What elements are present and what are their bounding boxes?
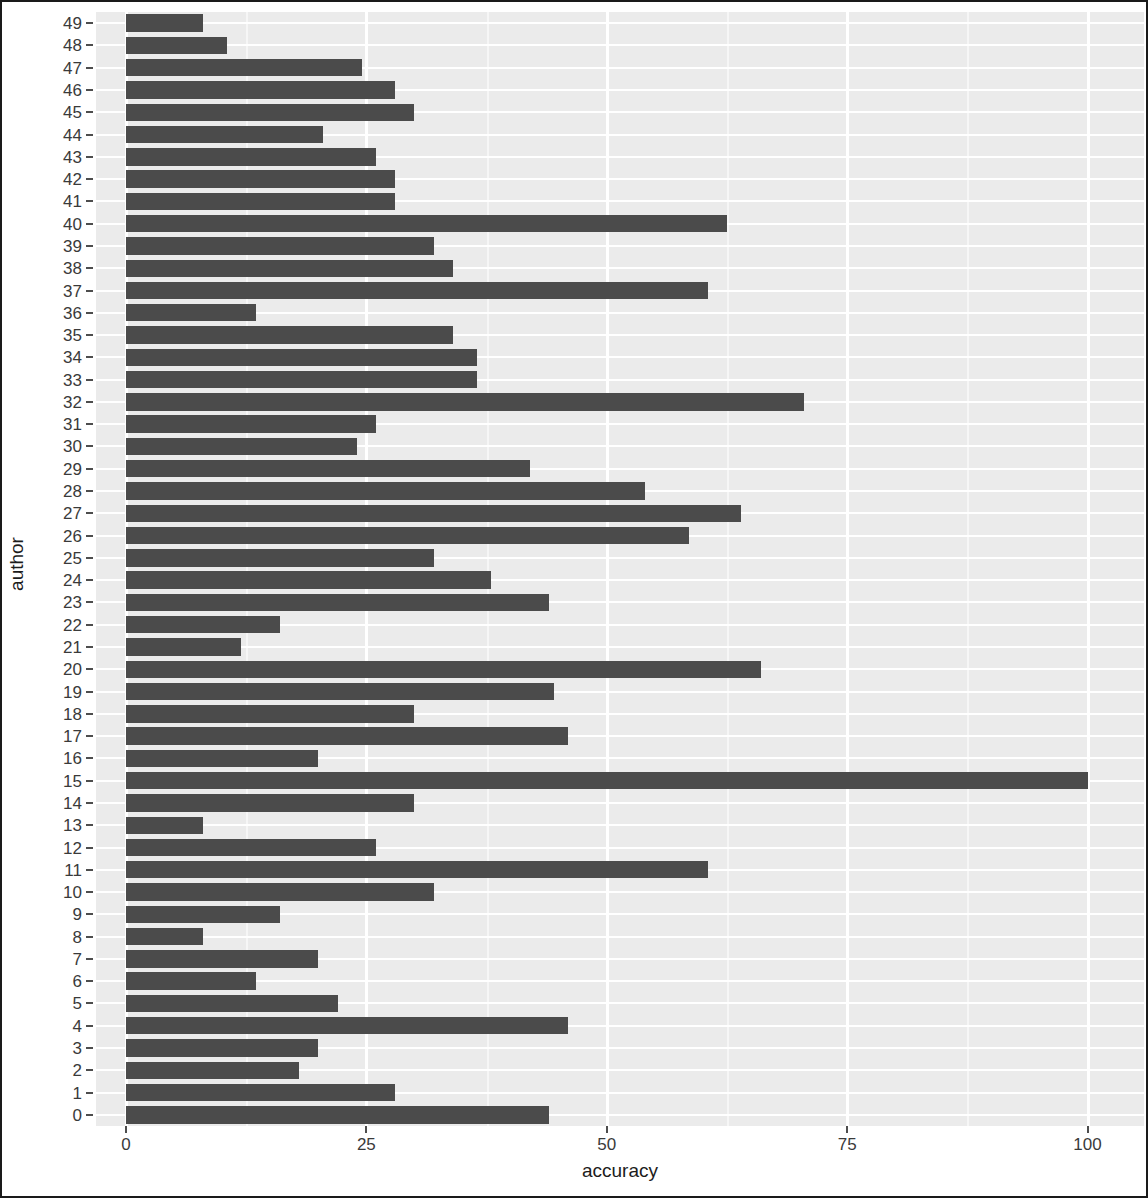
y-tick-mark [86,379,93,381]
y-tick-label: 9 [73,906,82,923]
y-tick-mark [86,334,93,336]
y-tick-mark [86,557,93,559]
bar [126,326,453,343]
y-tick-label: 22 [63,616,82,633]
y-tick-label: 49 [63,15,82,32]
bar [126,661,761,678]
bar [126,1062,299,1079]
y-tick-mark [86,535,93,537]
y-tick-mark [86,245,93,247]
y-tick-label: 32 [63,393,82,410]
y-tick-label: 29 [63,460,82,477]
y-tick-label: 31 [63,416,82,433]
y-tick-mark [86,156,93,158]
y-tick-mark [86,468,93,470]
bar [126,527,689,544]
y-tick-mark [86,735,93,737]
bar [126,260,453,277]
y-axis-title: author [4,2,30,1126]
x-tick-label: 100 [1073,1136,1101,1153]
y-tick-mark [86,869,93,871]
bar [126,549,434,566]
bar [126,794,414,811]
bar [126,282,708,299]
bar [126,883,434,900]
y-tick-label: 35 [63,327,82,344]
y-tick-mark [86,67,93,69]
y-axis-tick-labels: 4948474645444342414039383736353433323130… [28,12,96,1126]
y-tick-label: 40 [63,215,82,232]
y-tick-mark [86,134,93,136]
x-tick-mark [606,1126,608,1133]
y-tick-mark [86,356,93,358]
bar [126,126,323,143]
y-tick-mark [86,1069,93,1071]
bar [126,683,554,700]
bar [126,906,280,923]
bar [126,505,741,522]
y-tick-mark [86,780,93,782]
y-tick-mark [86,1047,93,1049]
bar [126,616,280,633]
y-tick-mark [86,847,93,849]
bar [126,371,477,388]
y-tick-label: 38 [63,260,82,277]
y-tick-label: 41 [63,193,82,210]
y-tick-label: 24 [63,572,82,589]
y-tick-label: 48 [63,37,82,54]
y-tick-mark [86,1114,93,1116]
y-tick-label: 19 [63,683,82,700]
bar [126,750,318,767]
y-tick-label: 2 [73,1062,82,1079]
y-tick-label: 44 [63,126,82,143]
y-tick-label: 8 [73,928,82,945]
gridline-major-horizontal [96,936,1144,938]
x-tick-label: 25 [357,1136,376,1153]
gridline-major-horizontal [96,22,1144,24]
bar [126,817,203,834]
bar [126,59,362,76]
bar [126,861,708,878]
bar [126,1017,568,1034]
y-tick-mark [86,601,93,603]
bar [126,104,414,121]
y-tick-label: 5 [73,995,82,1012]
x-tick-mark [365,1126,367,1133]
y-tick-mark [86,691,93,693]
gridline-major-horizontal [96,44,1144,46]
y-tick-mark [86,401,93,403]
y-tick-mark [86,1025,93,1027]
y-tick-mark [86,111,93,113]
chart-figure: author 494847464544434241403938373635343… [0,0,1148,1198]
bar [126,638,241,655]
bar [126,705,414,722]
y-tick-mark [86,1002,93,1004]
y-tick-label: 21 [63,638,82,655]
x-tick-label: 75 [838,1136,857,1153]
bar [126,1106,549,1123]
y-tick-label: 10 [63,884,82,901]
y-tick-label: 18 [63,705,82,722]
bar [126,482,645,499]
bar [126,393,804,410]
y-tick-label: 46 [63,81,82,98]
y-tick-label: 14 [63,794,82,811]
y-tick-mark [86,200,93,202]
y-tick-label: 25 [63,549,82,566]
bar [126,14,203,31]
y-tick-mark [86,913,93,915]
y-tick-mark [86,490,93,492]
y-tick-label: 33 [63,371,82,388]
y-tick-mark [86,290,93,292]
y-tick-label: 36 [63,304,82,321]
y-tick-label: 43 [63,148,82,165]
bar [126,972,256,989]
x-axis-title: accuracy [96,1160,1144,1182]
y-tick-label: 42 [63,171,82,188]
y-tick-mark [86,423,93,425]
plot-panel [96,12,1144,1126]
y-tick-label: 47 [63,59,82,76]
y-tick-mark [86,312,93,314]
x-axis-ticks: 0255075100 [96,1126,1144,1160]
y-tick-label: 12 [63,839,82,856]
